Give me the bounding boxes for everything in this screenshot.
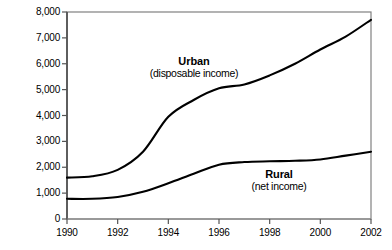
series-sublabel-rural: (net income) bbox=[219, 180, 339, 192]
x-axis-tick-label: 2000 bbox=[298, 228, 342, 238]
x-axis-tick-label: 1992 bbox=[96, 228, 140, 238]
x-axis-tick-labels: 1990199219941996199820002002 bbox=[0, 0, 392, 250]
x-axis-tick-label: 1996 bbox=[197, 228, 241, 238]
series-name-urban: Urban bbox=[124, 55, 264, 67]
x-axis-tick-label: 1990 bbox=[45, 228, 89, 238]
x-axis-tick-label: 2002 bbox=[349, 228, 392, 238]
series-sublabel-urban: (disposable income) bbox=[124, 67, 264, 79]
x-axis-tick-label: 1998 bbox=[248, 228, 292, 238]
series-label-rural: Rural (net income) bbox=[219, 168, 339, 192]
series-name-rural: Rural bbox=[219, 168, 339, 180]
chart-container: Average income per head, yuan 01,0002,00… bbox=[0, 0, 392, 250]
x-axis-tick-label: 1994 bbox=[146, 228, 190, 238]
series-label-urban: Urban (disposable income) bbox=[124, 55, 264, 79]
